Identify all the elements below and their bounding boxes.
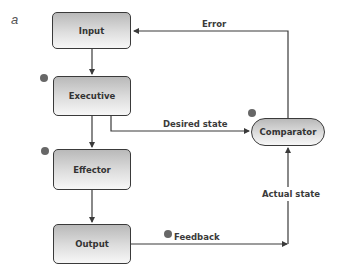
effector-marker-dot	[41, 147, 49, 155]
effector-node: Effector	[53, 149, 131, 190]
feedback-label: Feedback	[174, 232, 220, 242]
output-node-label: Output	[75, 239, 109, 249]
input-node: Input	[52, 12, 131, 49]
effector-node-label: Effector	[73, 165, 111, 175]
comparator-node: Comparator	[251, 118, 325, 146]
executive-marker-dot	[40, 74, 48, 82]
input-node-label: Input	[79, 26, 104, 36]
actual-state-label: Actual state	[262, 189, 320, 199]
output-node: Output	[53, 224, 131, 264]
executive-node-label: Executive	[69, 91, 115, 101]
error-label: Error	[202, 19, 226, 29]
comparator-node-label: Comparator	[260, 127, 317, 137]
comparator-marker-dot	[248, 109, 256, 117]
desired-state-label: Desired state	[163, 119, 227, 129]
feedback-marker-dot	[164, 230, 172, 238]
executive-node: Executive	[53, 76, 131, 116]
